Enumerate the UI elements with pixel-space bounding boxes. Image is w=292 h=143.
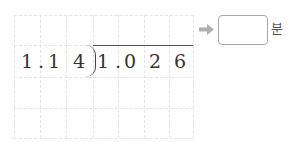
divisor-decimal-point: . bbox=[38, 49, 44, 73]
divisor-digit: 1 bbox=[48, 49, 60, 73]
grid-line bbox=[14, 77, 193, 78]
grid-line bbox=[193, 15, 194, 138]
graph-paper-grid bbox=[14, 15, 193, 138]
right-arrow-icon bbox=[199, 24, 214, 35]
unit-label: 분 bbox=[271, 21, 283, 37]
dividend-digit: 0 bbox=[124, 49, 136, 73]
answer-input-box[interactable] bbox=[218, 15, 268, 45]
division-bracket bbox=[86, 45, 96, 77]
divisor-digit: 1 bbox=[21, 49, 33, 73]
dividend-digit: 1 bbox=[97, 49, 109, 73]
dividend-digit: 2 bbox=[149, 49, 161, 73]
grid-line bbox=[14, 15, 193, 16]
divisor-digit: 4 bbox=[73, 49, 85, 73]
grid-line bbox=[14, 138, 193, 139]
dividend-digit: 6 bbox=[174, 49, 186, 73]
dividend-decimal-point: . bbox=[115, 49, 121, 73]
grid-line bbox=[14, 108, 193, 109]
division-overline bbox=[93, 45, 193, 46]
